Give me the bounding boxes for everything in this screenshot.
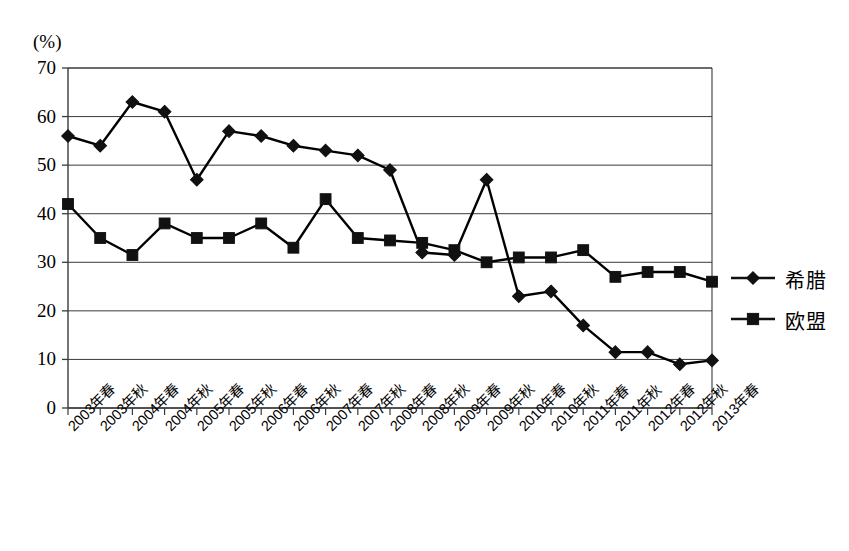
data-point-marker [513, 252, 524, 263]
data-point-marker [546, 252, 557, 263]
chart-container: (%) 706050403020100 2003年春2003年秋2004年春20… [0, 0, 849, 551]
series-line [68, 102, 712, 364]
data-point-marker [610, 271, 621, 282]
data-point-marker [674, 358, 686, 370]
data-point-marker [255, 130, 267, 142]
series-square [63, 194, 718, 287]
data-point-marker [352, 149, 364, 161]
data-point-marker [256, 218, 267, 229]
data-point-marker [384, 164, 396, 176]
y-axis-tick-label: 0 [14, 398, 56, 417]
legend-marker-square [747, 313, 758, 324]
legend-label: 希腊 [785, 265, 827, 294]
data-point-marker [127, 250, 138, 261]
y-axis-tick-label: 50 [14, 155, 56, 174]
data-point-marker [578, 245, 589, 256]
data-point-marker [706, 354, 718, 366]
y-axis-tick-label: 70 [14, 58, 56, 77]
data-point-marker [62, 130, 74, 142]
legend-marker-diamond [747, 272, 759, 284]
data-point-marker [641, 346, 653, 358]
data-point-marker [674, 267, 685, 278]
data-point-marker [707, 276, 718, 287]
data-point-marker [352, 233, 363, 244]
legend-label: 欧盟 [785, 306, 827, 335]
y-axis-tick-label: 60 [14, 107, 56, 126]
y-axis-unit-label: (%) [33, 31, 61, 53]
plot-area [0, 0, 849, 551]
data-point-marker [223, 125, 235, 137]
data-point-marker [95, 233, 106, 244]
data-point-marker [287, 140, 299, 152]
data-point-marker [480, 174, 492, 186]
data-point-marker [449, 245, 460, 256]
data-point-marker [158, 106, 170, 118]
data-point-marker [642, 267, 653, 278]
data-point-marker [481, 257, 492, 268]
y-axis-tick-label: 10 [14, 349, 56, 368]
data-point-marker [191, 233, 202, 244]
data-point-marker [417, 237, 428, 248]
data-point-marker [159, 218, 170, 229]
data-point-marker [385, 235, 396, 246]
data-point-marker [319, 144, 331, 156]
data-point-marker [191, 174, 203, 186]
data-point-marker [320, 194, 331, 205]
y-axis-tick-label: 40 [14, 204, 56, 223]
data-point-marker [513, 290, 525, 302]
data-point-marker [63, 199, 74, 210]
data-point-marker [224, 233, 235, 244]
y-axis-tick-label: 30 [14, 252, 56, 271]
y-axis-tick-label: 20 [14, 301, 56, 320]
series-diamond [62, 96, 718, 371]
data-point-marker [288, 242, 299, 253]
